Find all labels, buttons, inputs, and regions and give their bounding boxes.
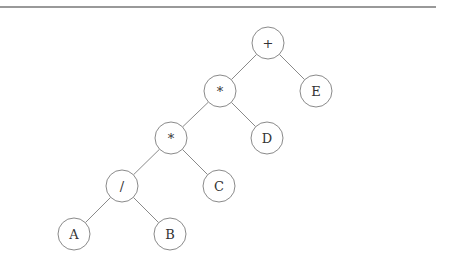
tree-edge xyxy=(182,149,207,174)
tree-edge xyxy=(231,102,255,126)
node-label: E xyxy=(311,84,321,99)
node-label: B xyxy=(165,227,175,242)
node-label: / xyxy=(120,179,125,194)
tree-edge xyxy=(231,54,256,79)
node-label: C xyxy=(214,179,224,194)
tree-edge xyxy=(279,54,304,79)
tree-edge xyxy=(85,197,110,222)
tree-node: A xyxy=(58,218,90,250)
node-label: A xyxy=(68,227,79,242)
tree-edge xyxy=(183,102,209,127)
tree-node: C xyxy=(203,170,235,202)
tree-node: D xyxy=(251,122,283,154)
node-label: + xyxy=(263,36,274,51)
tree-edge xyxy=(133,197,158,222)
node-label: * xyxy=(217,84,224,99)
tree-node: / xyxy=(106,170,138,202)
tree-node: * xyxy=(204,75,236,107)
node-label: * xyxy=(168,131,175,146)
tree-nodes: +*E*D/CAB xyxy=(58,27,332,250)
node-label: D xyxy=(262,131,272,146)
tree-node: B xyxy=(154,218,186,250)
tree-node: + xyxy=(252,27,284,59)
tree-edge xyxy=(133,149,159,175)
tree-node: * xyxy=(155,122,187,154)
expression-tree-diagram: +*E*D/CAB xyxy=(0,0,451,269)
tree-node: E xyxy=(300,75,332,107)
